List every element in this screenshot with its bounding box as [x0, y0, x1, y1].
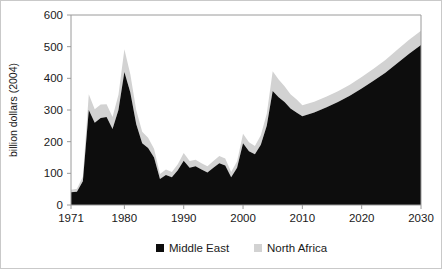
legend-swatch-north-africa [254, 244, 262, 252]
y-tick-group: 0100200300400500600 [44, 9, 71, 211]
x-tick-group: 1971198019902000201020202030 [58, 205, 434, 224]
x-tick-label: 1971 [58, 212, 84, 224]
y-tick-label: 200 [44, 136, 63, 148]
legend-swatch-middle-east [156, 244, 164, 252]
chart-legend: Middle East North Africa [156, 242, 328, 254]
y-tick-label: 600 [44, 9, 63, 21]
x-tick-label: 1990 [171, 212, 197, 224]
x-tick-label: 2030 [408, 212, 434, 224]
x-tick-label: 1980 [112, 212, 138, 224]
y-tick-label: 400 [44, 72, 63, 84]
stacked-area-chart: 0100200300400500600 19711980199020002010… [1, 1, 442, 269]
y-tick-label: 300 [44, 104, 63, 116]
y-axis-title: billion dollars (2004) [7, 63, 19, 157]
x-tick-label: 2010 [290, 212, 316, 224]
chart-figure: 0100200300400500600 19711980199020002010… [0, 0, 442, 269]
y-tick-label: 100 [44, 167, 63, 179]
x-tick-label: 2020 [349, 212, 375, 224]
legend-label-north-africa: North Africa [267, 242, 328, 254]
x-tick-label: 2000 [230, 212, 256, 224]
y-tick-label: 500 [44, 41, 63, 53]
y-tick-label: 0 [57, 199, 63, 211]
legend-label-middle-east: Middle East [169, 242, 230, 254]
